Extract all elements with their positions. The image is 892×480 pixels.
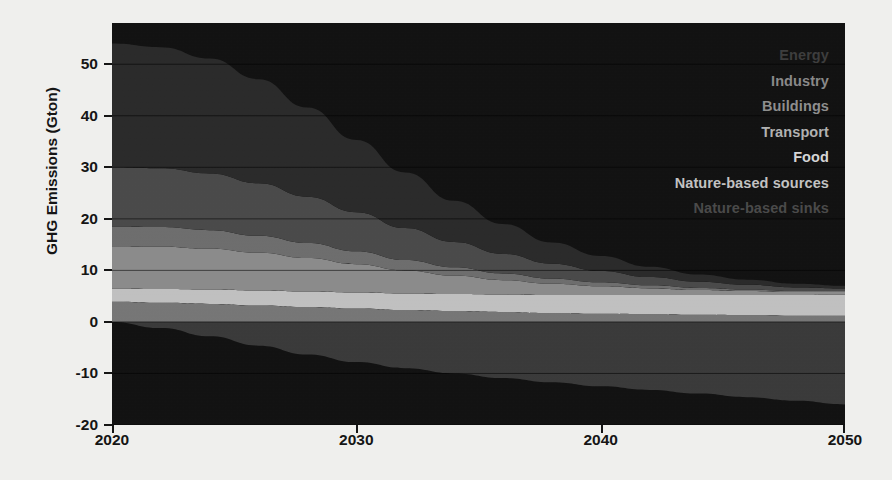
- y-tick-mark-50: [104, 63, 112, 65]
- y-tick-label-0: 0: [40, 314, 98, 330]
- y-tick-label-40: 40: [40, 108, 98, 124]
- chart-figure: GHG Emissions (Gton) 50403020100-10-20 E…: [0, 0, 892, 480]
- y-tick-mark-20: [104, 218, 112, 220]
- y-tick-mark-40: [104, 115, 112, 117]
- chart-legend: EnergyIndustryBuildingsTransportFoodNatu…: [675, 43, 829, 222]
- y-tick-mark-10: [104, 269, 112, 271]
- y-tick-label-50: 50: [40, 56, 98, 72]
- x-tick-mark-2020: [112, 425, 114, 433]
- y-tick-mark--20: [104, 424, 112, 426]
- x-tick-label-2050: 2050: [800, 432, 890, 448]
- legend-item-nature-based-sources: Nature-based sources: [675, 171, 829, 197]
- y-tick-mark-0: [104, 321, 112, 323]
- area-band-nature-based-sinks: [112, 322, 845, 404]
- y-tick-label--20: -20: [40, 417, 98, 433]
- y-tick-label--10: -10: [40, 365, 98, 381]
- y-tick-label-20: 20: [40, 211, 98, 227]
- legend-item-nature-based-sinks: Nature-based sinks: [675, 196, 829, 222]
- legend-item-energy: Energy: [675, 43, 829, 69]
- plot-area: EnergyIndustryBuildingsTransportFoodNatu…: [112, 23, 845, 425]
- y-tick-label-10: 10: [40, 262, 98, 278]
- x-tick-mark-2030: [356, 425, 358, 433]
- legend-item-buildings: Buildings: [675, 94, 829, 120]
- x-tick-label-2020: 2020: [67, 432, 157, 448]
- x-tick-mark-2040: [601, 425, 603, 433]
- legend-item-transport: Transport: [675, 120, 829, 146]
- x-tick-label-2040: 2040: [556, 432, 646, 448]
- x-tick-label-2030: 2030: [311, 432, 401, 448]
- legend-item-industry: Industry: [675, 69, 829, 95]
- x-tick-mark-2050: [843, 425, 845, 433]
- y-tick-label-30: 30: [40, 159, 98, 175]
- y-tick-mark-30: [104, 166, 112, 168]
- legend-item-food: Food: [675, 145, 829, 171]
- y-tick-mark--10: [104, 372, 112, 374]
